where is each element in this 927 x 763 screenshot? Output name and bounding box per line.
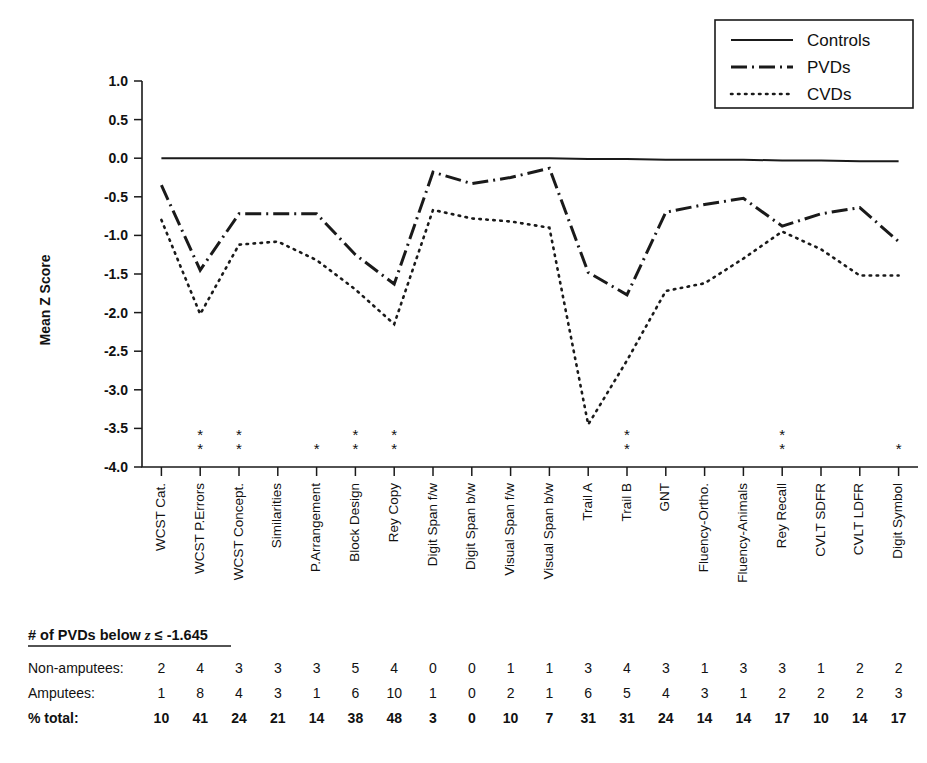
table-cell: 1 [313,685,321,701]
significance-star: * [391,426,397,443]
table-cell: 6 [584,685,592,701]
significance-star: * [624,426,630,443]
table-cell: 41 [192,710,208,726]
table-cell: 2 [895,660,903,676]
y-tick-label: -3.0 [104,382,128,398]
table-cell: 3 [235,660,243,676]
table-cell: 1 [546,685,554,701]
legend-label-pvds: PVDs [807,58,850,77]
mean-z-score-line-chart: ControlsPVDsCVDs 1.00.50.0-0.5-1.0-1.5-2… [0,0,927,763]
significance-star: * [236,426,242,443]
table-header-prefix: # of PVDs below [28,627,145,643]
significance-star: * [314,440,320,457]
table-cell: 1 [701,660,709,676]
table-cell: 38 [348,710,364,726]
significance-star: * [779,426,785,443]
x-axis-category-label: WCST Concept. [231,483,246,580]
x-axis-category-label: GNT [657,483,672,512]
table-cell: 3 [701,685,709,701]
y-tick-label: -0.5 [104,189,128,205]
figure-container: ControlsPVDsCVDs 1.00.50.0-0.5-1.0-1.5-2… [0,0,927,763]
x-axis-category-label: Digit Symbol [890,483,905,559]
chart-legend: ControlsPVDsCVDs [715,20,913,108]
y-tick-label: 1.0 [109,73,129,89]
y-tick-label: -1.0 [104,227,128,243]
table-cell: 14 [852,710,868,726]
table-cell: 4 [196,660,204,676]
table-row-label: % total: [28,710,79,726]
table-cell: 1 [740,685,748,701]
table-cell: 17 [774,710,790,726]
x-axis-category-label: Visual Span b/w [541,483,556,580]
table-cell: 24 [658,710,674,726]
significance-star: * [197,426,203,443]
table-cell: 3 [895,685,903,701]
table-cell: 3 [313,660,321,676]
x-axis-category-label: Rey Recall [774,483,789,548]
x-axis-category-label: CVLT LDFR [851,483,866,556]
table-cell: 14 [697,710,713,726]
table-cell: 1 [817,660,825,676]
table-cell: 3 [584,660,592,676]
legend-label-controls: Controls [807,31,870,50]
table-cell: 0 [468,710,476,726]
table-cell: 7 [546,710,554,726]
x-axis-category-label: Digit Span f/w [425,483,440,567]
table-cell: 14 [309,710,325,726]
table-cell: 3 [740,660,748,676]
y-tick-label: -2.0 [104,305,128,321]
legend-label-cvds: CVDs [807,85,851,104]
table-cell: 4 [235,685,243,701]
table-cell: 2 [778,685,786,701]
table-cell: 1 [429,685,437,701]
x-axis-category-label: CVLT SDFR [813,483,828,557]
x-axis-category-label: WCST Cat. [153,483,168,551]
table-cell: 4 [390,660,398,676]
table-cell: 21 [270,710,286,726]
table-cell: 8 [196,685,204,701]
table-cell: 2 [856,660,864,676]
x-axis-category-label: WCST P.Errors [192,483,207,574]
significance-star: * [352,426,358,443]
table-cell: 1 [546,660,554,676]
x-axis-category-label: Digit Span b/w [463,483,478,570]
table-cell: 31 [580,710,596,726]
y-tick-label: -2.5 [104,343,128,359]
y-tick-label: -4.0 [104,459,128,475]
table-cell: 2 [158,660,166,676]
table-cell: 5 [352,660,360,676]
table-cell: 3 [274,685,282,701]
table-cell: 2 [817,685,825,701]
table-cell: 17 [891,710,907,726]
table-cell: 14 [736,710,752,726]
table-cell: 5 [623,685,631,701]
x-axis-category-label: Visual Span f/w [502,483,517,576]
x-axis-category-label: Similarities [269,483,284,549]
x-axis-category-label: Trail B [619,483,634,522]
table-cell: 1 [158,685,166,701]
table-cell: 10 [813,710,829,726]
table-header-suffix: ≤ -1.645 [151,627,208,643]
x-axis-category-label: Fluency-Ortho. [696,483,711,572]
table-header: # of PVDs below z ≤ -1.645 [28,627,208,643]
significance-star: * [896,440,902,457]
table-cell: 10 [154,710,170,726]
x-axis-category-label: Fluency-Animals [735,483,750,583]
table-cell: 3 [429,710,437,726]
table-cell: 0 [429,660,437,676]
table-cell: 3 [274,660,282,676]
y-tick-label: -1.5 [104,266,128,282]
table-cell: 4 [623,660,631,676]
table-cell: 0 [468,685,476,701]
table-cell: 6 [352,685,360,701]
y-tick-label: 0.5 [109,112,129,128]
table-cell: 48 [386,710,402,726]
x-axis-category-label: Trail A [580,483,595,521]
x-axis-category-label: P.Arrangement [308,483,323,572]
table-cell: 1 [507,660,515,676]
x-axis-category-label: Block Design [347,483,362,562]
table-cell: 4 [662,685,670,701]
y-axis-title: Mean Z Score [37,254,53,345]
table-cell: 2 [507,685,515,701]
table-cell: 24 [231,710,247,726]
